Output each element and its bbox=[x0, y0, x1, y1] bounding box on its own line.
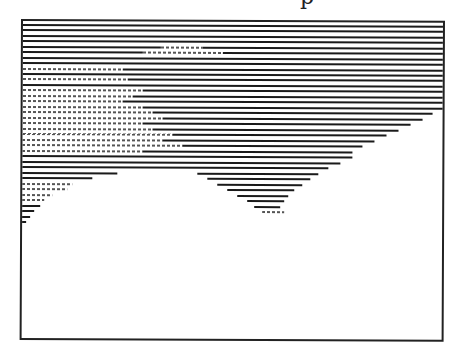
hatch-line bbox=[217, 184, 302, 186]
hatch-line bbox=[223, 52, 443, 55]
hatch-line bbox=[22, 155, 352, 158]
hatch-line-raster bbox=[22, 21, 443, 340]
hatch-line bbox=[23, 73, 443, 77]
hatch-line bbox=[254, 206, 280, 208]
hatch-line bbox=[203, 47, 443, 50]
hatch-line bbox=[123, 68, 443, 71]
hatch-line bbox=[22, 188, 67, 190]
hatch-line bbox=[22, 205, 40, 207]
hatch-line bbox=[23, 68, 123, 70]
hatch-line bbox=[22, 161, 340, 164]
hatch-line bbox=[161, 47, 203, 49]
hatch-line bbox=[22, 216, 30, 218]
hatch-line bbox=[23, 117, 163, 119]
hatch-line bbox=[143, 107, 443, 110]
hatch-line bbox=[207, 178, 310, 180]
hatch-line bbox=[262, 211, 284, 213]
hatch-line bbox=[237, 195, 288, 197]
hatch-line bbox=[23, 46, 161, 49]
hatch-line bbox=[153, 129, 399, 132]
hatch-line bbox=[23, 106, 143, 108]
hatch-line bbox=[22, 166, 328, 169]
hatch-line bbox=[128, 78, 443, 81]
hatch-line bbox=[22, 221, 26, 223]
hatch-line bbox=[143, 90, 443, 93]
hatch-line bbox=[22, 133, 172, 135]
hatch-line bbox=[22, 150, 142, 152]
hatch-line bbox=[123, 100, 443, 103]
hatch-line bbox=[172, 134, 386, 137]
hatch-line bbox=[22, 183, 72, 185]
hatch-line bbox=[22, 172, 117, 174]
hatch-line bbox=[23, 128, 153, 130]
hatch-line bbox=[23, 122, 143, 124]
hatch-line bbox=[247, 200, 284, 202]
hatch-line bbox=[23, 35, 443, 39]
hatch-line bbox=[153, 112, 433, 115]
hatch-line bbox=[23, 57, 443, 61]
hatch-line bbox=[163, 118, 423, 121]
hatch-line bbox=[23, 84, 443, 88]
hatch-line bbox=[22, 144, 182, 146]
hatch-line bbox=[133, 95, 443, 98]
hatch-line bbox=[23, 111, 153, 113]
hatch-line bbox=[23, 51, 143, 54]
hatch-line bbox=[22, 194, 52, 196]
hatch-line bbox=[143, 123, 411, 126]
hatch-line bbox=[23, 95, 133, 97]
hatch-line bbox=[227, 189, 294, 191]
hatch-line bbox=[143, 52, 223, 54]
hatch-line bbox=[142, 151, 352, 154]
title-fragment: p bbox=[300, 0, 314, 8]
hatch-line bbox=[23, 62, 443, 66]
hatch-line bbox=[22, 139, 162, 141]
hatch-line bbox=[23, 100, 123, 102]
hatch-line bbox=[23, 89, 143, 91]
hatch-line bbox=[23, 29, 443, 33]
image-frame bbox=[20, 19, 445, 342]
hatch-line bbox=[22, 177, 92, 179]
hatch-line bbox=[23, 40, 443, 44]
hatch-line bbox=[182, 145, 362, 148]
hatch-line bbox=[197, 173, 318, 176]
hatch-line bbox=[23, 78, 128, 80]
hatch-line bbox=[22, 199, 44, 201]
hatch-line bbox=[23, 24, 443, 28]
hatch-line bbox=[22, 210, 34, 212]
hatch-line bbox=[162, 140, 374, 143]
